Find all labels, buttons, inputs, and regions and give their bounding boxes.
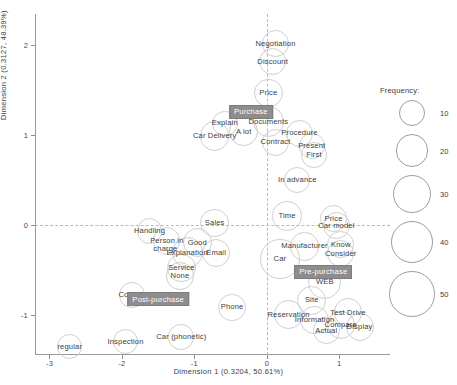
point-label: Test Drive	[330, 309, 365, 318]
point-label: Inspection	[107, 337, 143, 346]
point-label: Good	[188, 239, 207, 248]
point-label: Actual	[315, 326, 337, 335]
legend-title: Frequency:	[380, 86, 420, 95]
point-label: Handling	[134, 227, 165, 236]
point-label: Car (phonetic)	[156, 333, 206, 342]
legend-circle	[391, 221, 433, 263]
correspondence-analysis-chart: -3-2-101210-1 NegotiationDiscountPricePu…	[0, 0, 457, 385]
point-label: Display	[347, 323, 373, 332]
point-label: regular	[57, 343, 82, 352]
point-label: WEB	[316, 278, 334, 287]
legend-circle	[393, 175, 431, 213]
legend-circle	[399, 100, 425, 126]
legend-value-label: 30	[440, 190, 448, 199]
y-tick-label: 2	[8, 41, 28, 50]
y-tick-label: 1	[8, 131, 28, 140]
point-label: None	[171, 272, 190, 281]
legend-value-label: 10	[440, 109, 448, 118]
y-tick	[31, 45, 35, 46]
y-axis-title: Dimension 2 (0.3127, 48.39%)	[0, 10, 8, 120]
legend-value-label: 40	[440, 238, 448, 247]
point-label: Car Delivery	[193, 132, 237, 141]
point-label: A lot	[236, 127, 252, 136]
point-label: Email	[206, 248, 226, 257]
point-label: Negotiation	[255, 39, 295, 48]
point-label: Consider	[325, 249, 357, 258]
point-label: First	[306, 151, 322, 160]
point-label: Site	[305, 296, 319, 305]
y-tick	[31, 135, 35, 136]
y-tick-label: 0	[8, 221, 28, 230]
point-label: Time	[279, 212, 296, 221]
point-label: Documents	[248, 117, 288, 126]
point-label: Price	[259, 89, 277, 98]
y-tick	[31, 315, 35, 316]
legend-value-label: 50	[440, 290, 448, 299]
legend-circle	[389, 271, 435, 317]
point-label: Contract	[261, 138, 291, 147]
point-label: Sales	[205, 219, 225, 228]
x-axis-line	[35, 354, 390, 355]
frequency-legend: Frequency: 1020304050	[378, 86, 457, 301]
y-tick-label: -1	[8, 311, 28, 320]
point-label: Explanation	[166, 248, 207, 257]
point-label: Discount	[257, 57, 288, 66]
y-axis-line	[35, 14, 36, 355]
point-label: Explain	[212, 119, 238, 128]
legend-value-label: 20	[440, 147, 448, 156]
point-label: Manufacturer	[281, 242, 328, 251]
plot-area: -3-2-101210-1 NegotiationDiscountPricePu…	[35, 14, 390, 355]
highlighted-category-label: Post-purchase	[127, 292, 189, 306]
legend-circle	[396, 134, 429, 167]
x-axis-title: Dimension 1 (0.3204, 50.61%)	[0, 367, 457, 376]
point-label: Car model	[318, 221, 354, 230]
point-label: Phone	[221, 303, 244, 312]
point-label: Car	[274, 255, 287, 264]
point-label: In advance	[278, 176, 317, 185]
